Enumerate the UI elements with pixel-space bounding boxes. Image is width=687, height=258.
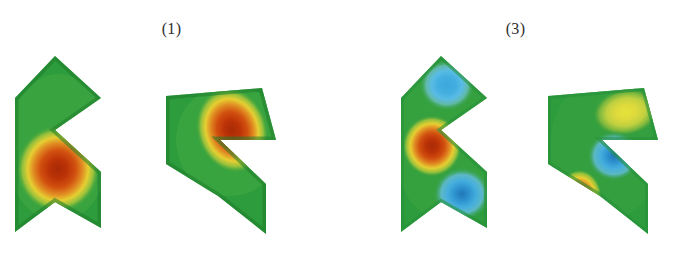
- mode-plot-1a: [8, 52, 133, 237]
- heatmap-field-3a: [394, 52, 519, 237]
- extremum-max-3a-2: [402, 115, 462, 177]
- mode-plot-3b: [540, 52, 670, 237]
- panel-label-3: (3): [344, 20, 687, 38]
- panel-1: (1): [0, 0, 343, 258]
- eigenmode-heatmap-3b: [540, 52, 670, 237]
- figure-root: (1): [0, 0, 687, 258]
- panel-label-1: (1): [0, 20, 343, 38]
- heatmap-field-1a: [6, 52, 133, 237]
- eigenmode-heatmap-1b: [158, 52, 288, 237]
- eigenmode-heatmap-1a: [8, 52, 133, 237]
- heatmap-field-3b: [540, 52, 670, 237]
- eigenmode-heatmap-3a: [394, 52, 519, 237]
- panel-3: (3): [344, 0, 687, 258]
- extremum-min-3a-1: [419, 59, 475, 111]
- mode-plot-1b: [158, 52, 288, 237]
- heatmap-field-1b: [158, 52, 288, 237]
- mode-plot-3a: [394, 52, 519, 237]
